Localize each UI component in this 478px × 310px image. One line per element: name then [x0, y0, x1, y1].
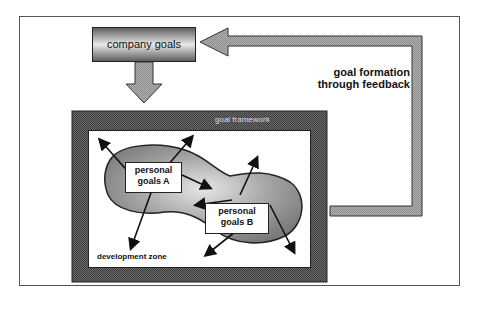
feedback-label-line1: goal formation: [310, 66, 410, 78]
goal-framework-label: goal framework: [215, 116, 315, 125]
feedback-label-line2: through feedback: [300, 78, 410, 90]
company-goals-label: company goals: [92, 38, 196, 50]
development-zone-label: development zone: [97, 253, 217, 262]
personal-goals-a-line1: personal: [125, 166, 182, 176]
personal-goals-b-line1: personal: [205, 207, 269, 217]
diagram-canvas: [0, 0, 478, 310]
personal-goals-a-line2: goals A: [125, 177, 182, 187]
personal-goals-b-line2: goals B: [205, 218, 269, 228]
